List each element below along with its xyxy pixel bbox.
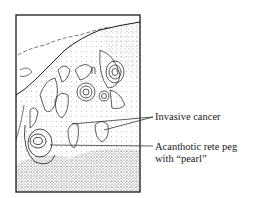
histology-illustration [0, 0, 271, 198]
label-acanthotic-rete-peg: Acanthotic rete peg [155, 141, 237, 153]
label-invasive-cancer: Invasive cancer [155, 111, 221, 123]
label-with-pearl: with “pearl” [155, 153, 207, 165]
tissue-drawing [16, 15, 140, 192]
